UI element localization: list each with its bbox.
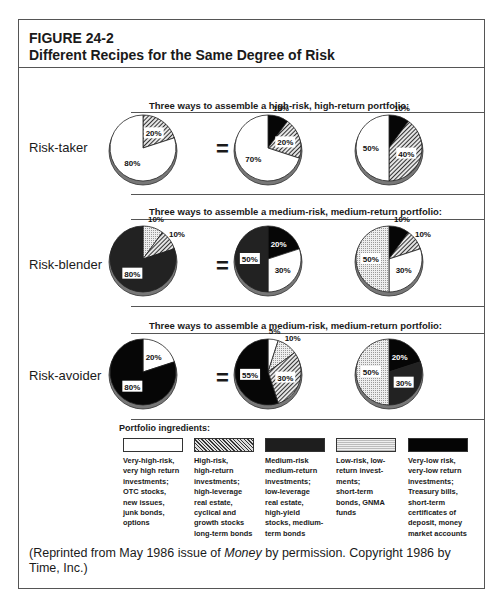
- legend-item-very-low-risk: Very-low risk,very-low returninvestments…: [408, 438, 498, 539]
- pie-risk-taker-1: 20%80%: [109, 115, 177, 185]
- slice-label: 30%: [396, 266, 412, 275]
- pie-risk-taker-2: 10%20%70%: [234, 104, 302, 185]
- pie-risk-avoider-1: 20%80%: [109, 339, 177, 409]
- swatch-medium-risk: [265, 438, 325, 452]
- pie-risk-avoider-2: 5%10%30%55%: [234, 327, 302, 409]
- slice-label: 30%: [275, 266, 291, 275]
- slice-label: 80%: [124, 159, 140, 168]
- pie-risk-blender-3: 10%10%30%50%: [355, 215, 431, 296]
- pie-risk-avoider-3: 20%30%50%: [355, 339, 423, 409]
- slice-label: 10%: [148, 215, 164, 224]
- slice-label: 5%: [269, 327, 281, 336]
- figure-frame: FIGURE 24-2 Different Recipes for the Sa…: [18, 19, 485, 589]
- slice-label: 50%: [363, 144, 379, 153]
- slice-label: 20%: [392, 353, 408, 362]
- swatch-high-risk: [194, 438, 254, 452]
- pie-risk-taker-3: 10%40%50%: [355, 104, 423, 185]
- slice-label: 20%: [271, 240, 287, 249]
- footnote-italic: Money: [224, 546, 262, 560]
- slice-label: 10%: [394, 104, 410, 113]
- slice-label: 50%: [363, 255, 379, 264]
- slice-label: 10%: [273, 104, 289, 113]
- slice-label: 55%: [242, 371, 258, 380]
- swatch-very-high-risk: [123, 438, 183, 452]
- slice-label: 20%: [277, 138, 293, 147]
- slice-label: 20%: [146, 353, 162, 362]
- slice-label: 50%: [242, 255, 258, 264]
- pie-chart-canvas: 20%80%10%20%70%10%40%50%10%10%80%20%30%5…: [19, 20, 486, 440]
- slice-label: 10%: [394, 215, 410, 224]
- swatch-low-risk: [336, 438, 396, 452]
- footnote-text: (Reprinted from May 1986 issue of: [29, 546, 224, 560]
- slice-label: 30%: [277, 374, 293, 383]
- slice-label: 20%: [146, 129, 162, 138]
- slice-label: 80%: [124, 383, 140, 392]
- pie-risk-blender-1: 10%10%80%: [109, 215, 185, 296]
- slice-label: 10%: [415, 230, 431, 239]
- legend-title: Portfolio ingredients:: [119, 423, 210, 433]
- pie-risk-blender-2: 20%30%50%: [234, 226, 302, 296]
- slice-label: 80%: [124, 270, 140, 279]
- slice-label: 40%: [398, 150, 414, 159]
- slice-label: 10%: [169, 230, 185, 239]
- slice-label: 30%: [396, 379, 412, 388]
- slice-label: 70%: [245, 155, 261, 164]
- footnote: (Reprinted from May 1986 issue of Money …: [29, 546, 474, 576]
- slice-label: 10%: [285, 334, 301, 343]
- legend-text: Very-low risk,very-low returninvestments…: [408, 456, 498, 539]
- swatch-very-low-risk: [408, 438, 468, 452]
- slice-label: 50%: [363, 368, 379, 377]
